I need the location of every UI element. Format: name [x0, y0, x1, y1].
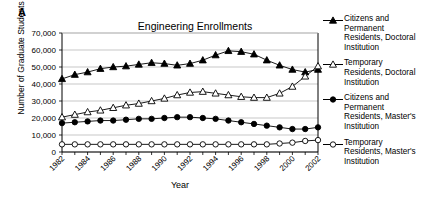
legend-entry: Citizens and Permanent Residents, Master… — [322, 93, 446, 131]
y-tick-label: 40,000 — [32, 80, 57, 89]
y-tick-label: 50,000 — [32, 63, 57, 72]
x-tick-label: 1992 — [175, 154, 194, 173]
series-marker — [136, 116, 141, 121]
x-tick-label: 1998 — [252, 154, 271, 173]
series-marker — [263, 57, 270, 63]
legend-label: Citizens and Permanent Residents, Doctor… — [344, 14, 415, 52]
series-marker — [200, 115, 205, 120]
series-marker — [85, 142, 90, 147]
series-marker — [290, 140, 295, 145]
series-marker — [225, 47, 232, 53]
series-marker — [213, 116, 218, 121]
series-marker — [239, 120, 244, 125]
series-marker — [149, 142, 154, 147]
series-marker — [187, 114, 192, 119]
series-marker — [111, 118, 116, 123]
series-marker — [276, 90, 283, 96]
series-marker — [85, 119, 90, 124]
series-marker — [123, 117, 128, 122]
y-tick-label: 20,000 — [32, 114, 57, 123]
legend-entry: Temporary Residents, Doctoral Institutio… — [322, 58, 446, 87]
series-marker — [277, 141, 282, 146]
series-marker — [148, 59, 155, 65]
x-tick-label: 1986 — [99, 154, 118, 173]
series-marker — [251, 121, 256, 126]
series-marker — [303, 138, 308, 143]
series-marker — [59, 142, 64, 147]
x-tick-label: 1982 — [47, 154, 66, 173]
x-tick-label: 1984 — [73, 154, 92, 173]
series-marker — [315, 125, 320, 130]
legend-symbol — [330, 97, 335, 102]
chart-legend: Citizens and Permanent Residents, Doctor… — [322, 14, 446, 172]
series-marker — [72, 120, 77, 125]
series-marker — [276, 62, 283, 68]
series-marker — [136, 142, 141, 147]
series-marker — [251, 142, 256, 147]
legend-label: Temporary Residents, Master's Institutio… — [344, 138, 416, 167]
series-marker — [213, 142, 218, 147]
series-marker — [239, 142, 244, 147]
legend-entry: Citizens and Permanent Residents, Doctor… — [322, 14, 446, 52]
legend-label: Citizens and Permanent Residents, Master… — [344, 93, 416, 131]
legend-marker-open-triangle-icon — [322, 59, 344, 70]
series-marker — [199, 88, 206, 94]
legend-symbol — [330, 141, 335, 146]
series-marker — [72, 142, 77, 147]
series-2 — [59, 114, 320, 131]
y-tick-label: 10,000 — [32, 131, 57, 140]
x-tick-label: 1994 — [201, 154, 220, 173]
series-marker — [290, 126, 295, 131]
series-marker — [59, 120, 64, 125]
series-marker — [162, 115, 167, 120]
series-marker — [111, 142, 116, 147]
series-0 — [59, 47, 322, 81]
y-tick-label: 0 — [52, 148, 57, 157]
legend-marker-filled-circle-icon — [322, 94, 344, 105]
series-marker — [175, 114, 180, 119]
series-marker — [226, 118, 231, 123]
series-marker — [162, 142, 167, 147]
series-marker — [98, 142, 103, 147]
series-marker — [315, 63, 322, 69]
series-marker — [149, 116, 154, 121]
figure-panel-a: A Engineering Enrollments Number of Grad… — [0, 0, 446, 203]
x-tick-label: 2000 — [278, 154, 297, 173]
series-marker — [123, 142, 128, 147]
series-marker — [200, 142, 205, 147]
series-marker — [264, 142, 269, 147]
legend-marker-filled-triangle-icon — [322, 15, 344, 26]
series-marker — [226, 142, 231, 147]
series-marker — [187, 142, 192, 147]
series-marker — [303, 126, 308, 131]
series-marker — [264, 123, 269, 128]
legend-label: Temporary Residents, Doctoral Institutio… — [344, 58, 415, 87]
x-tick-label: 1990 — [150, 154, 169, 173]
series-marker — [175, 142, 180, 147]
series-marker — [277, 125, 282, 130]
legend-entry: Temporary Residents, Master's Institutio… — [322, 138, 446, 167]
series-3 — [59, 137, 320, 147]
y-tick-label: 60,000 — [32, 46, 57, 55]
x-tick-label: 1996 — [227, 154, 246, 173]
y-tick-label: 30,000 — [32, 97, 57, 106]
series-marker — [98, 118, 103, 123]
y-tick-label: 70,000 — [32, 29, 57, 38]
x-tick-label: 1988 — [124, 154, 143, 173]
x-tick-label: 2002 — [303, 154, 322, 173]
legend-marker-open-circle-icon — [322, 139, 344, 150]
series-marker — [199, 57, 206, 63]
series-marker — [315, 137, 320, 142]
